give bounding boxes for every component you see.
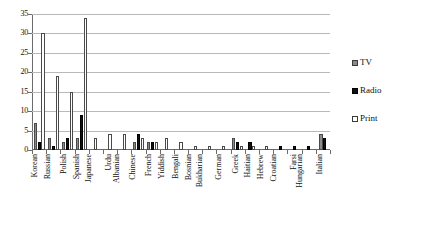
bar-group xyxy=(131,14,145,150)
bar-radio xyxy=(151,142,154,150)
legend-label: Print xyxy=(360,114,378,123)
bar-group xyxy=(231,14,245,150)
bar-radio xyxy=(80,115,83,150)
x-axis-label: French xyxy=(145,154,153,176)
x-axis-label: Yiddish xyxy=(158,154,166,179)
bar-radio xyxy=(66,138,69,150)
bar-tv xyxy=(147,142,150,150)
x-axis-label-cell: Croatian xyxy=(273,154,287,224)
bar-print xyxy=(84,18,87,150)
chart-legend: TVRadioPrint xyxy=(352,58,432,142)
bar-print xyxy=(41,33,44,150)
x-axis-label: Bengali xyxy=(172,154,180,179)
bar-print xyxy=(94,138,97,150)
bar-print xyxy=(179,142,182,150)
bar-print xyxy=(70,92,73,150)
bar-print xyxy=(56,76,59,150)
x-axis-label: Chinese xyxy=(129,154,137,180)
y-axis-tick-label: 35 xyxy=(20,10,28,18)
bar-group xyxy=(259,14,273,150)
x-axis-label: Croatian xyxy=(270,154,278,182)
legend-item-print[interactable]: Print xyxy=(352,114,432,123)
bar-tv xyxy=(133,142,136,150)
x-axis-label: Bosnian xyxy=(186,154,194,180)
legend-swatch-print xyxy=(352,116,358,122)
bar-group xyxy=(60,14,74,150)
x-axis-label-cell: Japanese xyxy=(89,154,103,224)
x-axis-label: German xyxy=(214,154,222,180)
bar-group xyxy=(32,14,46,150)
bar-group xyxy=(202,14,216,150)
plot-area xyxy=(32,14,330,150)
x-axis-label: Greek xyxy=(231,154,239,174)
bar-groups xyxy=(32,14,330,150)
bar-tv xyxy=(62,142,65,150)
x-axis-labels: KoreanRussianPolishSpanishJapaneseUrduAl… xyxy=(32,154,330,224)
bar-radio xyxy=(323,138,326,150)
x-axis-label-cell: German xyxy=(216,154,230,224)
x-axis-label: Korean xyxy=(31,154,39,178)
legend-label: TV xyxy=(360,58,372,67)
y-axis-tick-label: 10 xyxy=(20,107,28,115)
legend-swatch-tv xyxy=(352,60,358,66)
bar-print xyxy=(108,134,111,150)
y-axis-tick-label: 15 xyxy=(20,88,28,96)
legend-item-tv[interactable]: TV xyxy=(352,58,432,67)
bar-tv xyxy=(34,123,37,150)
x-axis-label: Polish xyxy=(61,154,69,174)
bar-group xyxy=(174,14,188,150)
legend-label: Radio xyxy=(360,86,382,95)
bar-tv xyxy=(319,134,322,150)
y-axis-tick-label: 25 xyxy=(20,49,28,57)
bar-radio xyxy=(248,142,251,150)
bar-group xyxy=(75,14,89,150)
legend-swatch-radio xyxy=(352,88,358,94)
bar-chart: 05101520253035 KoreanRussianPolishSpanis… xyxy=(0,0,445,227)
bar-group xyxy=(302,14,316,150)
bar-group xyxy=(316,14,330,150)
x-axis-label-cell: Hungarian xyxy=(302,154,316,224)
bar-radio xyxy=(236,142,239,150)
bar-group xyxy=(89,14,103,150)
x-axis-tick xyxy=(330,150,331,154)
x-axis-label: Albanian xyxy=(113,154,121,183)
x-axis-label: Japanese xyxy=(85,154,93,182)
x-axis-label-cell: Italian xyxy=(316,154,330,224)
bar-tv xyxy=(76,138,79,150)
x-axis-label: Haitian xyxy=(244,154,252,178)
bar-tv xyxy=(48,138,51,150)
bar-group xyxy=(216,14,230,150)
bar-group xyxy=(103,14,117,150)
y-axis-tick-label: 20 xyxy=(20,68,28,76)
bar-print xyxy=(165,138,168,150)
bar-group xyxy=(117,14,131,150)
x-axis-label-cell: Chinese xyxy=(131,154,145,224)
bar-group xyxy=(160,14,174,150)
x-axis-label: Russian xyxy=(44,154,52,179)
x-axis-label: Spanish xyxy=(72,154,80,179)
x-axis-label: Hungarian xyxy=(295,154,303,188)
bar-print xyxy=(155,142,158,150)
x-axis-label: Italian xyxy=(316,154,324,174)
x-axis-label: Bukharian xyxy=(196,154,204,187)
x-axis-label: Hebrew xyxy=(257,154,265,179)
bar-group xyxy=(146,14,160,150)
y-axis-labels: 05101520253035 xyxy=(0,14,28,150)
bar-radio xyxy=(137,134,140,150)
bar-group xyxy=(46,14,60,150)
bar-group xyxy=(188,14,202,150)
bar-group xyxy=(273,14,287,150)
bar-radio xyxy=(38,142,41,150)
x-axis-label-cell: Russian xyxy=(46,154,60,224)
bar-print xyxy=(141,138,144,150)
bar-group xyxy=(287,14,301,150)
y-axis-tick-label: 30 xyxy=(20,29,28,37)
bar-tv xyxy=(232,138,235,150)
legend-item-radio[interactable]: Radio xyxy=(352,86,432,95)
bar-print xyxy=(123,134,126,150)
bar-group xyxy=(245,14,259,150)
